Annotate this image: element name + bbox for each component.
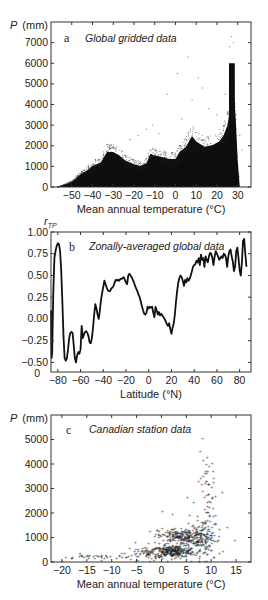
panel-c-letter: c <box>66 423 71 437</box>
svg-text:+: + <box>175 548 178 554</box>
y-tick-label: 1000 <box>25 160 49 172</box>
svg-text:+: + <box>209 536 212 542</box>
y-tick-label: 3000 <box>25 119 49 131</box>
svg-text:+: + <box>109 553 112 559</box>
svg-text:+: + <box>211 494 214 500</box>
panel-b-data <box>51 239 246 362</box>
x-tick-label: −80 <box>49 374 67 386</box>
svg-text:+: + <box>212 505 215 511</box>
svg-text:+: + <box>182 542 185 548</box>
svg-text:+: + <box>149 528 152 534</box>
svg-text:+: + <box>192 522 195 528</box>
svg-text:+: + <box>171 511 174 517</box>
y-tick-label: 0 <box>42 181 48 193</box>
y-tick-label: 4000 <box>25 98 49 110</box>
y-tick-label: 0 <box>42 556 48 568</box>
panel-b-zonal: −80−60−40−20020406080−0.50−0.250.000.250… <box>21 215 251 400</box>
y-tick-label: 5000 <box>25 433 49 445</box>
svg-text:+: + <box>210 524 213 530</box>
svg-text:+: + <box>201 488 204 494</box>
panel-c-ylabel: P (mm) <box>10 412 48 424</box>
svg-text:+: + <box>168 532 171 538</box>
svg-text:+: + <box>209 547 212 553</box>
svg-text:+: + <box>135 553 138 559</box>
svg-text:+: + <box>204 549 207 555</box>
svg-text:+: + <box>153 545 156 551</box>
panel-c-title: Canadian station data <box>89 423 191 435</box>
x-tick-label: −20 <box>53 564 71 576</box>
svg-text:+: + <box>206 551 209 557</box>
panel-a-ylabel: P (mm) <box>10 19 48 31</box>
svg-text:+: + <box>206 454 209 460</box>
svg-text:+: + <box>205 478 208 484</box>
svg-text:+: + <box>199 448 202 454</box>
svg-text:+: + <box>128 545 131 551</box>
svg-text:+: + <box>166 558 169 564</box>
svg-text:+: + <box>154 555 157 561</box>
svg-text:+: + <box>234 537 237 543</box>
svg-text:+: + <box>221 489 224 495</box>
svg-text:+: + <box>106 554 109 560</box>
svg-text:+: + <box>198 530 201 536</box>
y-tick-label: 6000 <box>25 57 49 69</box>
svg-text:+: + <box>184 550 187 556</box>
figure: −50−40−30−20−100102030010002000300040005… <box>0 0 268 600</box>
svg-text:+: + <box>206 499 209 505</box>
y-tick-label: 2000 <box>25 139 49 151</box>
svg-text:+: + <box>129 556 132 562</box>
panel-a-xlabel: Mean annual temperature (°C) <box>77 203 226 215</box>
x-tick-label: −20 <box>125 189 143 201</box>
svg-text:+: + <box>211 460 214 466</box>
svg-text:+: + <box>200 481 203 487</box>
panel-c-data: ++++++++++++++++++++++++++++++++++++++++… <box>60 435 236 564</box>
x-tick-label: −10 <box>103 564 121 576</box>
y-tick-label: 1000 <box>25 531 49 543</box>
panel-a-title: Global gridded data <box>85 32 177 44</box>
svg-text:+: + <box>205 492 208 498</box>
svg-text:+: + <box>150 555 153 561</box>
svg-text:+: + <box>164 546 167 552</box>
svg-text:+: + <box>226 524 229 530</box>
x-tick-label: −20 <box>117 374 135 386</box>
svg-text:+: + <box>212 479 215 485</box>
x-tick-label: 20 <box>211 189 223 201</box>
panel-a-letter: a <box>64 31 70 45</box>
svg-text:+: + <box>170 556 173 562</box>
svg-text:+: + <box>212 554 215 560</box>
dense-scatter-area <box>57 82 240 187</box>
svg-text:+: + <box>218 550 221 556</box>
panel-b-ylabel: rTP <box>44 215 57 229</box>
svg-text:+: + <box>153 533 156 539</box>
svg-text:+: + <box>83 554 86 560</box>
svg-text:+: + <box>78 553 81 559</box>
svg-text:+: + <box>159 546 162 552</box>
panel-b-title: Zonally-averaged global data <box>88 240 225 252</box>
x-tick-label: 40 <box>188 374 200 386</box>
svg-text:+: + <box>204 539 207 545</box>
x-tick-label: 60 <box>211 374 223 386</box>
panel-a-global-gridded: −50−40−30−20−100102030010002000300040005… <box>10 19 251 215</box>
svg-text:+: + <box>134 539 137 545</box>
svg-text:+: + <box>197 478 200 484</box>
panel-c-xlabel: Mean annual temperature (°C) <box>77 578 226 590</box>
panel-b-xlabel: Latitude (°N) <box>120 388 182 400</box>
panel-b-letter: b <box>69 240 75 254</box>
svg-text:+: + <box>204 509 207 515</box>
svg-text:+: + <box>187 520 190 526</box>
x-tick-label: −40 <box>84 189 102 201</box>
x-tick-label: 10 <box>190 189 202 201</box>
svg-text:+: + <box>189 551 192 557</box>
svg-text:+: + <box>153 539 156 545</box>
svg-text:+: + <box>201 435 204 441</box>
x-tick-label: 80 <box>234 374 246 386</box>
x-tick-label: −10 <box>146 189 164 201</box>
svg-text:+: + <box>190 558 193 564</box>
y-tick-label: 0.25 <box>28 291 49 303</box>
rtp-line <box>51 239 246 362</box>
y-tick-label: 2000 <box>25 507 49 519</box>
svg-text:+: + <box>92 553 95 559</box>
y-tick-label: 0.50 <box>28 269 49 281</box>
svg-text:+: + <box>86 552 89 558</box>
svg-text:+: + <box>118 552 121 558</box>
x-tick-label: 0 <box>159 564 165 576</box>
